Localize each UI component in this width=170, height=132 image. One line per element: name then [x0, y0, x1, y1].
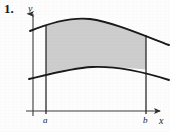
- figure-container: 1. y x a b: [0, 0, 170, 132]
- region-between-curves-diagram: [0, 0, 170, 132]
- shaded-region-between-curves: [46, 19, 146, 74]
- x-axis-label: x: [159, 116, 163, 126]
- y-axis-label: y: [28, 4, 32, 14]
- tick-label-a: a: [43, 116, 48, 125]
- tick-label-b: b: [143, 116, 148, 125]
